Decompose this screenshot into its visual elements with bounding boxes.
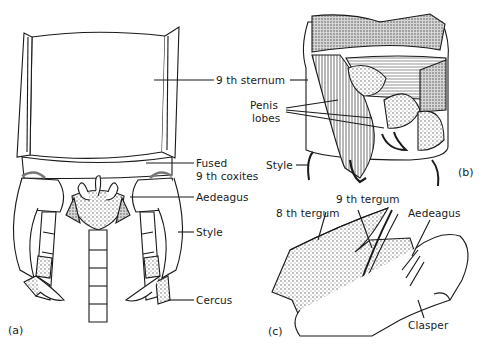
label-aedeagus-a: Aedeagus <box>196 192 249 203</box>
label-clasper: Clasper <box>408 320 448 331</box>
label-aedeagus-c: Aedeagus <box>408 208 461 219</box>
panel-marker-b: (b) <box>458 166 474 179</box>
label-style-b: Style <box>266 160 293 171</box>
panel-marker-c: (c) <box>268 325 283 338</box>
label-9th-sternum: 9 th sternum <box>216 75 285 86</box>
label-9th-tergum: 9 th tergum <box>336 194 400 205</box>
panel-a-drawing <box>13 27 214 322</box>
label-penis-lobes-line1: Penis <box>250 100 278 111</box>
panel-marker-a: (a) <box>8 324 23 337</box>
panel-b-drawing <box>286 14 448 186</box>
label-style-a: Style <box>196 227 223 238</box>
label-fused-coxites-line1: Fused <box>196 158 227 169</box>
panel-c-drawing <box>272 208 468 336</box>
label-8th-tergum: 8 th tergum <box>276 208 340 219</box>
label-penis-lobes-line2: lobes <box>252 113 280 124</box>
label-cercus: Cercus <box>196 295 232 306</box>
label-fused-coxites-line2: 9 th coxites <box>196 171 258 182</box>
